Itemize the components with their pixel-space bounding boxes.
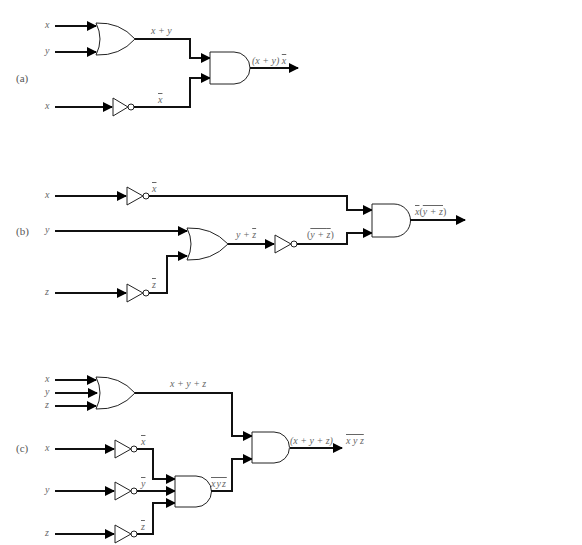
inverter-bubble-icon — [291, 241, 297, 247]
not-x-output-label: x — [152, 183, 156, 194]
input-label-y: y — [45, 484, 49, 495]
and-gate-icon — [175, 476, 211, 507]
input-label-x: x — [45, 373, 49, 384]
input-label-x: x — [45, 100, 49, 111]
circuit-c-output-label-sum: (x + y + z) — [290, 435, 333, 446]
part-label-c: (c) — [16, 443, 28, 454]
or-output-label: y + z — [236, 230, 256, 240]
and-gate-icon — [252, 432, 289, 463]
inverter-bubble-icon — [131, 488, 137, 494]
circuit-b-output-label: x(y + z) — [415, 207, 446, 217]
input-label-x: x — [45, 19, 49, 30]
not-x-output-label: x — [141, 436, 145, 447]
or-gate-icon — [96, 23, 135, 55]
circuit-c-output-label-product: x y z — [346, 435, 364, 446]
inverter-bubble-icon — [143, 193, 149, 199]
input-label-y: y — [45, 224, 49, 235]
wire-b-xbar — [149, 196, 372, 210]
wire-a-not-out — [134, 78, 210, 107]
or-gate-icon — [96, 377, 135, 409]
input-label-z: z — [45, 286, 49, 297]
input-label-x: x — [45, 442, 49, 453]
and-gate-icon — [210, 52, 250, 84]
part-label-a: (a) — [16, 73, 28, 84]
or-output-label: x + y — [151, 25, 172, 36]
part-label-b: (b) — [16, 226, 29, 237]
not-gate-icon — [275, 235, 291, 253]
wire-c-xbar — [137, 449, 175, 479]
inverter-bubble-icon — [143, 290, 149, 296]
not-gate-icon — [127, 284, 143, 302]
not-output-label: x — [158, 94, 162, 105]
input-label-x: x — [45, 189, 49, 200]
input-label-z: z — [45, 527, 49, 538]
not-gate-icon — [115, 525, 131, 543]
not-gate-icon — [115, 440, 131, 458]
not-y-output-label: y — [141, 478, 145, 489]
wire-c-or-out — [135, 393, 252, 436]
circuit-a-output-label: (x + y) x — [252, 56, 286, 66]
circuit-a — [55, 23, 298, 116]
wire-a-or-out — [135, 39, 210, 58]
circuit-c — [55, 377, 342, 543]
or-gate-icon — [187, 228, 228, 260]
not-gate-icon — [127, 187, 143, 205]
input-label-y: y — [45, 45, 49, 56]
inverter-bubble-icon — [131, 446, 137, 452]
or-output-label: x + y + z — [170, 378, 206, 389]
nor-output-label: (y + z) — [307, 230, 334, 240]
input-label-y: y — [45, 386, 49, 397]
not-gate-icon — [113, 98, 128, 116]
not-gate-icon — [115, 482, 131, 500]
and-xyz-bar-output-label: xyz — [211, 478, 227, 489]
inverter-bubble-icon — [128, 104, 134, 110]
not-z-output-label: z — [152, 279, 156, 290]
circuit-b — [55, 187, 465, 302]
not-z-output-label: z — [141, 521, 145, 532]
and-gate-icon — [372, 204, 411, 237]
logic-circuit-diagram — [0, 0, 582, 545]
inverter-bubble-icon — [131, 531, 137, 537]
input-label-z: z — [45, 399, 49, 410]
